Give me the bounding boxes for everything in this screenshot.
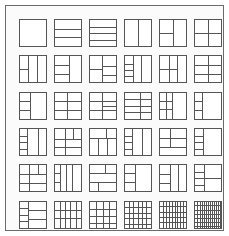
tile-quadrant-mixed-blocks [54,128,82,156]
tile-six-columns-four-rows [124,201,152,229]
tile-three-horizontal-bands [54,19,82,47]
tile-four-horizontal-bands [89,19,117,47]
tile-three-columns-left-four-rows [124,55,152,83]
tile-subregion [160,20,173,46]
tile-left-three-rows-right-open-tall [124,164,152,192]
tile-cell [191,160,226,196]
tile-three-rows-top-split-column [159,128,187,156]
tile-twelve-columns-densest [194,201,222,229]
tile-three-columns-left-and-middle-split [159,55,187,83]
tile-cell [15,51,50,87]
tile-cell [191,51,226,87]
tile-grid [15,15,226,233]
tile-cell [156,88,191,124]
tile-cell [191,197,226,233]
tile-subregion [160,93,172,119]
tile-cell [50,15,85,51]
tile-subregion [90,165,116,173]
tile-cell [121,124,156,160]
tile-five-columns-rows [54,201,82,229]
tile-subregion [125,129,132,155]
tile-cell [85,15,120,51]
tile-cell [15,124,50,160]
tile-subregion [20,56,29,82]
tile-cell [85,124,120,160]
tile-left-column-four-rows-right-two [19,128,47,156]
tile-subregion [125,56,133,82]
subdivision-grid-figure [0,0,229,236]
tile-subregion [102,56,116,82]
tile-cell [156,124,191,160]
tile-cell [15,160,50,196]
tile-subregion [160,56,168,82]
tile-two-columns-three-rows [194,55,222,83]
tile-cell [121,197,156,233]
tile-three-rows-right-subdivided [89,92,117,120]
tile-subregion [160,129,186,138]
tile-cell [50,51,85,87]
tile-cell [15,197,50,233]
tile-subregion [195,93,202,119]
tile-left-two-rows-right-three-rows [89,55,117,83]
tile-left-column-split-two [159,19,187,47]
tile-subregion [55,165,61,191]
tile-cell [85,51,120,87]
tile-empty-square [19,19,47,47]
tile-cell [50,160,85,196]
tile-subregion [20,202,29,228]
tile-cell [85,160,120,196]
tile-left-blocks-right-open [159,92,187,120]
tile-left-column-three-rows-right-whole [54,55,82,83]
tile-two-by-two-grid [194,19,222,47]
tile-cell [156,51,191,87]
tile-cell [15,88,50,124]
tile-subregion [90,56,102,82]
tile-eight-columns-dense [159,201,187,229]
figure-frame [5,5,224,231]
tile-subregion [195,165,203,191]
tile-subregion [55,56,69,82]
tile-cell [121,88,156,124]
tile-subregion [90,129,116,138]
tile-four-rows-two-columns [124,92,152,120]
tile-narrow-left-four-rows-right-open [194,128,222,156]
tile-cell [156,15,191,51]
tile-left-four-rows-right-split [194,164,222,192]
tile-subregion [65,129,81,139]
tile-cell [191,15,226,51]
tile-four-columns-narrow [54,164,82,192]
tile-subregion [28,202,45,228]
tile-two-columns-mixed-rows [54,92,82,120]
tile-cell [15,15,50,51]
tile-left-four-rows-right-three-rows [19,201,47,229]
tile-subregion [29,165,45,174]
tile-three-columns-left-split [19,55,47,83]
tile-cell [156,197,191,233]
tile-subregion [90,182,116,191]
tile-mixed-blocks-three-rows [89,164,117,192]
tile-cell [121,51,156,87]
tile-narrow-left-strip-three-rows [194,92,222,120]
tile-cell [85,197,120,233]
tile-cell [85,88,120,124]
tile-subregion [160,138,186,147]
tile-cell [121,15,156,51]
tile-subregion [55,101,81,118]
tile-subregion [160,165,169,191]
tile-subregion [20,93,31,119]
tile-subregion [204,165,222,191]
tile-subregion [125,165,135,191]
tile-cell [50,197,85,233]
tile-subregion [20,129,28,155]
tile-cell [156,160,191,196]
tile-cell [50,124,85,160]
tile-three-rows-left-column-split [19,164,47,192]
tile-subregion [169,56,177,82]
tile-four-columns-three-rows [89,201,117,229]
tile-subregion [195,129,203,155]
tile-two-vertical-bands [124,19,152,47]
tile-subregion [102,101,116,110]
tile-subregion [90,138,116,155]
tile-cell [191,124,226,160]
tile-two-columns-three-rows-left [159,164,187,192]
